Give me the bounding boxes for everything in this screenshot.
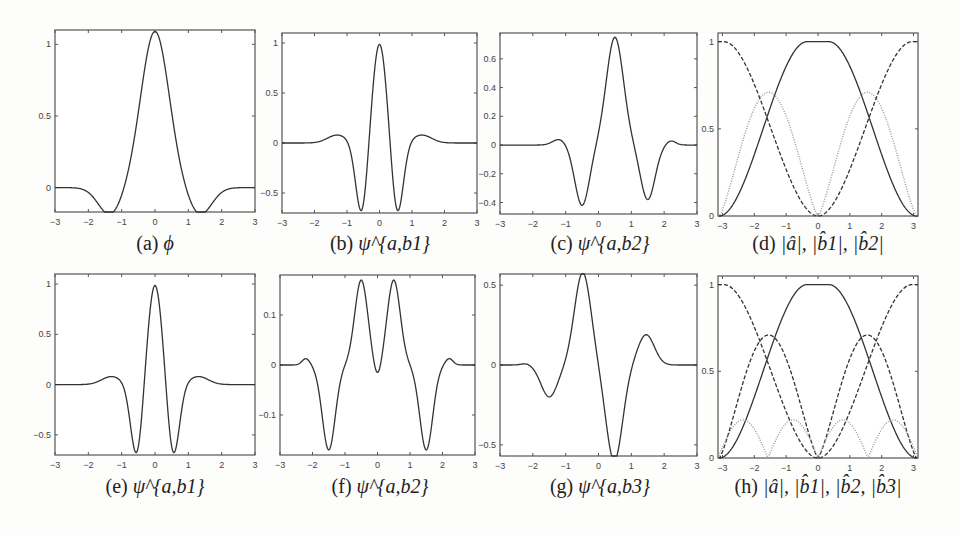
x-tick-label: 1 [847, 221, 852, 231]
x-tick-label: 3 [472, 460, 477, 470]
x-tick-label: 3 [911, 463, 916, 473]
caption-math: ϕ [158, 232, 173, 254]
y-tick-label: 0.5 [38, 329, 51, 339]
x-tick-label: −3 [495, 461, 505, 471]
x-tick-label: 3 [474, 218, 479, 228]
subplot-e: −3−2−10123−0.500.51 [55, 274, 255, 455]
caption-math: |â|, |b̂1|, |b̂2, |b̂3| [758, 475, 902, 497]
caption-math: ψ^{a,b3} [573, 475, 650, 497]
y-tick-label: 0.5 [265, 88, 278, 98]
x-tick-label: 2 [662, 219, 667, 229]
caption-label: (a) [136, 232, 158, 254]
y-tick-label: 1 [46, 279, 51, 289]
x-tick-label: −1 [340, 460, 350, 470]
x-tick-label: −3 [717, 221, 727, 231]
caption-math: ψ^{a,b2} [352, 475, 429, 497]
x-tick-label: −1 [781, 463, 791, 473]
x-tick-label: 3 [694, 219, 699, 229]
caption-label: (b) [330, 232, 353, 254]
x-tick-label: −3 [495, 219, 505, 229]
x-tick-label: −1 [342, 218, 352, 228]
x-tick-label: 1 [409, 218, 414, 228]
x-tick-label: 3 [252, 217, 257, 227]
x-tick-label: 2 [219, 217, 224, 227]
y-tick-label: 0.2 [483, 111, 496, 121]
x-tick-label: 1 [186, 217, 191, 227]
axes-frame [55, 274, 255, 455]
x-tick-label: 2 [879, 221, 884, 231]
x-tick-label: −1 [117, 460, 127, 470]
y-tick-label: −0.5 [33, 430, 51, 440]
y-tick-label: −0.5 [260, 188, 278, 198]
caption-math: ψ^{a,b1} [128, 475, 205, 497]
caption-label: (d) [752, 232, 775, 254]
axes-frame [55, 30, 255, 212]
caption-label: (g) [550, 475, 573, 497]
subplot-c: −3−2−10123−0.4−0.200.20.40.6 [500, 33, 697, 214]
y-tick-label: 0 [271, 360, 276, 370]
x-tick-label: −1 [561, 461, 571, 471]
y-tick-label: −0.2 [478, 169, 496, 179]
y-tick-label: 0.5 [483, 280, 496, 290]
x-tick-label: 0 [815, 221, 820, 231]
x-tick-label: 0 [815, 463, 820, 473]
subplot-d: −3−2−1012300.51 [718, 33, 918, 216]
x-tick-label: −2 [749, 463, 759, 473]
caption-math: |â|, |b̂1|, |b̂2| [776, 232, 884, 254]
y-tick-label: 0 [709, 211, 714, 221]
caption-label: (h) [735, 475, 758, 497]
x-tick-label: −3 [277, 218, 287, 228]
subplot-b: −3−2−10123−0.500.51 [282, 33, 477, 213]
y-tick-label: 0.1 [263, 310, 276, 320]
y-tick-label: −0.5 [478, 440, 496, 450]
y-tick-label: 0.5 [38, 111, 51, 121]
x-tick-label: −2 [83, 460, 93, 470]
x-tick-label: 2 [219, 460, 224, 470]
x-tick-label: 1 [186, 460, 191, 470]
x-tick-label: 2 [442, 218, 447, 228]
axes-frame [500, 33, 697, 214]
x-tick-label: 3 [694, 461, 699, 471]
y-tick-label: 1 [709, 280, 714, 290]
y-tick-label: 1 [273, 38, 278, 48]
caption-math: ψ^{a,b2} [573, 232, 650, 254]
caption-d: (d) |â|, |b̂1|, |b̂2| [718, 232, 918, 255]
y-tick-label: 0 [46, 380, 51, 390]
y-tick-label: 1 [709, 37, 714, 47]
y-tick-label: 0.5 [701, 366, 714, 376]
x-tick-label: 0 [152, 217, 157, 227]
caption-math: ψ^{a,b1} [353, 232, 430, 254]
x-tick-label: −3 [717, 463, 727, 473]
x-tick-label: 0 [152, 460, 157, 470]
x-tick-label: −1 [561, 219, 571, 229]
x-tick-label: 0 [377, 218, 382, 228]
y-tick-label: 0.4 [483, 83, 496, 93]
x-tick-label: −2 [309, 218, 319, 228]
x-tick-label: 1 [629, 461, 634, 471]
x-tick-label: 1 [407, 460, 412, 470]
x-tick-label: −2 [528, 219, 538, 229]
subplot-g: −3−2−10123−0.500.5 [500, 274, 697, 456]
x-tick-label: −2 [83, 217, 93, 227]
x-tick-label: 2 [440, 460, 445, 470]
x-tick-label: −2 [307, 460, 317, 470]
caption-label: (f) [332, 475, 352, 497]
caption-a: (a) ϕ [55, 232, 255, 255]
y-tick-label: −0.4 [478, 198, 496, 208]
caption-f: (f) ψ^{a,b2} [280, 475, 480, 498]
axes-frame [282, 33, 477, 213]
y-tick-label: 0 [491, 360, 496, 370]
y-tick-label: 0 [491, 140, 496, 150]
x-tick-label: −3 [50, 460, 60, 470]
caption-c: (c) ψ^{a,b2} [500, 232, 700, 255]
y-tick-label: 0 [273, 138, 278, 148]
y-tick-label: 0.6 [483, 54, 496, 64]
y-tick-label: 0 [709, 453, 714, 463]
caption-h: (h) |â|, |b̂1|, |b̂2, |b̂3| [718, 475, 918, 498]
x-tick-label: −3 [275, 460, 285, 470]
x-tick-label: 1 [847, 463, 852, 473]
x-tick-label: 0 [596, 461, 601, 471]
subplot-f: −3−2−10123−0.100.1 [280, 275, 475, 455]
x-tick-label: 2 [879, 463, 884, 473]
x-tick-label: 3 [911, 221, 916, 231]
